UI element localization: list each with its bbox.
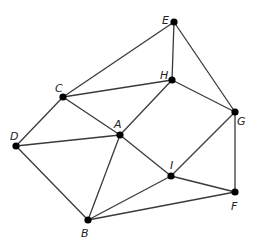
node-label-f: F [231, 200, 238, 213]
edge-b-f [88, 192, 235, 220]
edge-g-i [171, 112, 235, 176]
edge-h-a [120, 80, 172, 135]
edge-d-a [16, 135, 120, 146]
node-b [84, 216, 91, 223]
node-h [168, 76, 175, 83]
nodes [12, 18, 238, 223]
edge-h-g [172, 80, 235, 112]
edge-c-d [16, 97, 63, 146]
edge-a-i [120, 135, 171, 176]
edge-i-b [88, 176, 171, 220]
edges [16, 22, 235, 220]
edge-a-b [88, 135, 120, 220]
edge-d-b [16, 146, 88, 220]
node-i [167, 172, 174, 179]
node-label-h: H [160, 69, 168, 82]
node-f [231, 188, 238, 195]
node-label-i: I [170, 159, 173, 172]
edge-e-g [174, 22, 235, 112]
node-label-e: E [162, 14, 169, 27]
node-label-g: G [237, 115, 246, 128]
node-d [12, 142, 19, 149]
node-a [116, 131, 123, 138]
edge-c-h [63, 80, 172, 97]
node-e [170, 18, 177, 25]
node-label-c: C [55, 82, 63, 95]
node-label-b: B [81, 227, 89, 240]
edge-c-a [63, 97, 120, 135]
edge-i-f [171, 176, 235, 192]
node-label-d: D [10, 130, 18, 143]
node-label-a: A [113, 118, 122, 131]
edge-c-e [63, 22, 174, 97]
graph-diagram: ABCDEFGHI [0, 0, 257, 246]
edge-e-h [172, 22, 174, 80]
